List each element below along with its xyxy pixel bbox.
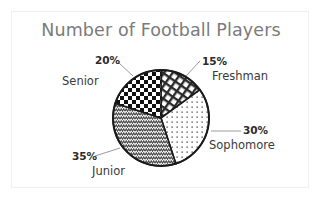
pie-chart-graphic bbox=[0, 0, 322, 204]
slice-label-sophomore: Sophomore bbox=[209, 138, 275, 152]
slice-percent-freshman: 15% bbox=[202, 55, 227, 67]
leader-line-senior bbox=[119, 63, 133, 76]
slice-percent-sophomore: 30% bbox=[243, 124, 268, 136]
slice-percent-junior: 35% bbox=[72, 150, 97, 162]
slice-label-senior: Senior bbox=[62, 74, 99, 88]
slice-percent-senior: 20% bbox=[95, 54, 120, 66]
leader-line-junior bbox=[95, 148, 120, 156]
slice-label-freshman: Freshman bbox=[212, 69, 268, 83]
chart-canvas: Number of Football Players bbox=[0, 0, 322, 204]
slice-label-junior: Junior bbox=[92, 164, 125, 178]
leader-line-freshman bbox=[186, 61, 200, 76]
